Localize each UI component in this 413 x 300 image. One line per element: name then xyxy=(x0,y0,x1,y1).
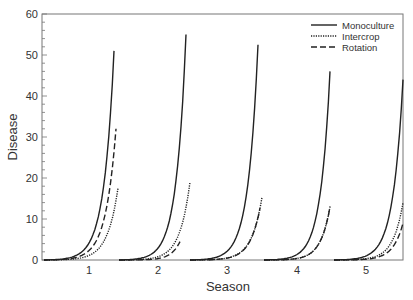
y-tick-label: 50 xyxy=(26,49,38,61)
curve-intercrop-season-3 xyxy=(190,197,262,260)
x-axis-tick-labels: 12345 xyxy=(86,264,369,276)
y-tick-label: 40 xyxy=(26,90,38,102)
series-curves xyxy=(44,35,403,261)
y-axis-title: Disease xyxy=(5,114,20,161)
x-tick-label: 1 xyxy=(86,264,92,276)
curve-monoculture-season-5 xyxy=(334,80,403,260)
curve-intercrop-season-5 xyxy=(334,203,403,260)
legend-label-monoculture: Monoculture xyxy=(342,20,394,31)
x-tick-label: 4 xyxy=(294,264,300,276)
x-axis-title: Season xyxy=(206,279,250,294)
curve-monoculture-season-2 xyxy=(119,35,186,261)
curve-monoculture-season-4 xyxy=(264,71,330,260)
curve-rotation-season-2 xyxy=(119,242,180,260)
y-axis-ticks xyxy=(42,14,47,260)
y-tick-label: 30 xyxy=(26,131,38,143)
legend-label-rotation: Rotation xyxy=(342,42,377,53)
curve-intercrop-season-2 xyxy=(119,182,190,260)
y-tick-label: 0 xyxy=(32,254,38,266)
x-tick-label: 5 xyxy=(363,264,369,276)
y-tick-label: 10 xyxy=(26,213,38,225)
y-axis-tick-labels: 0102030405060 xyxy=(26,8,38,266)
legend: Monoculture Intercrop Rotation xyxy=(311,20,394,53)
y-tick-label: 20 xyxy=(26,172,38,184)
curve-monoculture-season-3 xyxy=(190,45,258,260)
curve-rotation-season-1 xyxy=(44,129,116,260)
legend-label-intercrop: Intercrop xyxy=(342,31,380,42)
x-tick-label: 2 xyxy=(155,264,161,276)
curve-rotation-season-4 xyxy=(264,207,330,260)
disease-by-season-chart: 0102030405060 12345 Season Disease Monoc… xyxy=(0,0,413,300)
curve-intercrop-season-4 xyxy=(264,207,330,260)
curve-monoculture-season-1 xyxy=(44,51,114,260)
curve-intercrop-season-1 xyxy=(44,188,118,260)
y-tick-label: 60 xyxy=(26,8,38,20)
x-tick-label: 3 xyxy=(224,264,230,276)
